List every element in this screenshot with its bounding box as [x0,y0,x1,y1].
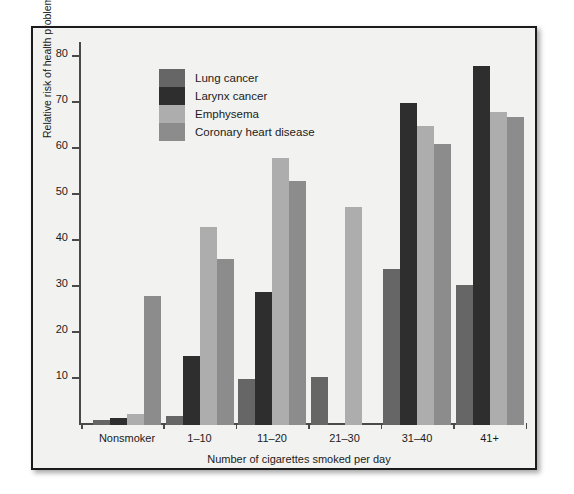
legend-swatch-icon [159,69,185,87]
x-axis-title: Number of cigarettes smoked per day [79,453,519,465]
legend-item-label: Emphysema [195,108,259,120]
bar [200,227,217,425]
y-axis-tick-label: 80 [56,47,68,59]
y-axis-tick: 40 [72,239,79,241]
x-axis-tick-label: 21–30 [329,432,360,444]
x-axis-tick [163,423,165,429]
x-axis-tick [381,423,383,429]
bar-group [311,57,383,425]
legend-item: Coronary heart disease [159,123,315,141]
bar [183,356,200,425]
y-axis-tick-label: 40 [56,231,68,243]
chart-frame: 1020304050607080 Relative risk of health… [31,26,537,470]
y-axis-tick-label: 50 [56,185,68,197]
bar [456,285,473,425]
bar [93,420,110,425]
y-axis-tick-label: 70 [56,93,68,105]
y-axis-tick: 20 [72,331,79,333]
bar-group [456,57,528,425]
bar [238,379,255,425]
x-axis-tick [236,423,238,429]
legend-item: Emphysema [159,105,315,123]
legend-item-label: Larynx cancer [195,90,267,102]
legend-swatch-icon [159,123,185,141]
y-axis-tick-label: 60 [56,139,68,151]
legend-item-label: Lung cancer [195,72,258,84]
y-axis-tick: 50 [72,193,79,195]
y-axis-tick: 80 [72,55,79,57]
y-axis-tick: 30 [72,285,79,287]
bar [127,414,144,426]
x-axis-tick-label: 31–40 [402,432,433,444]
bar [217,259,234,425]
x-axis-tick [308,423,310,429]
bar-group [93,57,165,425]
bar [272,158,289,425]
y-axis-tick: 10 [72,377,79,379]
plot-area: 1020304050607080 Relative risk of health… [79,42,519,438]
x-axis-tick [81,423,83,429]
bar [166,416,183,425]
bar [144,296,161,425]
bar [473,66,490,425]
bar [255,292,272,425]
x-axis-tick [526,423,528,429]
bar [490,112,507,425]
bar [383,269,400,425]
y-axis-line [79,42,81,424]
bar-group [383,57,455,425]
bar [110,418,127,425]
chart-legend: Lung cancerLarynx cancerEmphysemaCoronar… [159,69,315,141]
legend-item: Larynx cancer [159,87,315,105]
legend-swatch-icon [159,105,185,123]
bar [507,117,524,425]
x-axis-tick-label: 1–10 [187,432,211,444]
y-axis-tick: 70 [72,101,79,103]
bar [400,103,417,425]
bar [417,126,434,425]
x-axis-tick-label: 11–20 [257,432,287,444]
y-axis-tick-label: 30 [56,277,68,289]
bar [434,144,451,425]
x-axis-tick [453,423,455,429]
bar [345,207,362,426]
legend-item: Lung cancer [159,69,315,87]
x-axis-tick-label: 41+ [480,432,499,444]
legend-item-label: Coronary heart disease [195,126,315,138]
bar [311,377,328,425]
y-axis-tick-label: 20 [56,323,68,335]
bar [289,181,306,425]
figure-page: 1020304050607080 Relative risk of health… [0,0,574,494]
y-axis-tick-label: 10 [56,369,68,381]
legend-swatch-icon [159,87,185,105]
x-axis-tick-label: Nonsmoker [99,432,155,444]
y-axis-tick: 60 [72,147,79,149]
y-axis-title: Relative risk of health problem [41,0,53,138]
